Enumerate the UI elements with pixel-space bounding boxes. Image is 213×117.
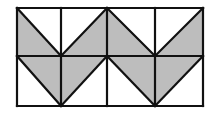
diagram-container: Grid of shaded triangles (zigzag pattern… [0,0,213,117]
triangle-grid-diagram [0,0,213,117]
